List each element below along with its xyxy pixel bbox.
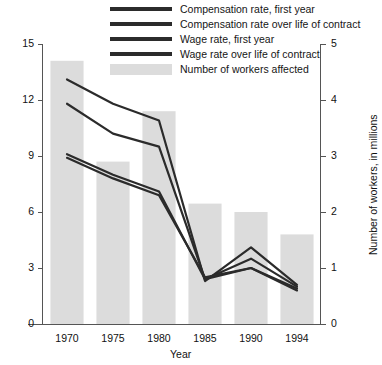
y-axis-left-tick: [38, 156, 43, 157]
legend-item-label: Compensation rate over life of contract: [180, 19, 360, 30]
y-axis-right-tick-label: 2: [331, 205, 337, 217]
bar-1970: [50, 61, 83, 324]
y-axis-right-tick: [321, 44, 326, 45]
y-axis-right-tick-label: 0: [331, 317, 337, 329]
y-axis-left-tick: [38, 212, 43, 213]
y-axis-right-tick-label: 1: [331, 261, 337, 273]
y-axis-right-tick-label: 4: [331, 93, 337, 105]
plot-area: [44, 44, 320, 324]
y-axis-left-tick-label: 0: [10, 317, 34, 329]
chart-plot-svg: [44, 44, 320, 324]
y-axis-right-tick-label: 3: [331, 149, 337, 161]
x-axis-tick-label: 1970: [44, 332, 90, 344]
bar-1985: [188, 204, 221, 324]
y-axis-right-tick: [321, 156, 326, 157]
x-axis-tick-label: 1985: [182, 332, 228, 344]
line-swatch-icon: [110, 37, 172, 41]
x-axis-line: [28, 324, 322, 325]
y-axis-left-tick: [38, 324, 43, 325]
chart-container: Compensation rate, first year Compensati…: [0, 0, 382, 365]
line-swatch-icon: [110, 7, 172, 11]
y-axis-left-line: [42, 44, 43, 325]
x-axis-title: Year: [170, 348, 191, 360]
y-axis-left-tick: [38, 44, 43, 45]
x-axis-tick-label: 1990: [228, 332, 274, 344]
legend-item-label: Compensation rate, first year: [180, 4, 315, 15]
legend-item-compensation-life-of-contract: Compensation rate over life of contract: [110, 17, 360, 31]
y-axis-left-tick: [38, 268, 43, 269]
y-axis-left-tick-label: 3: [10, 261, 34, 273]
legend-item-compensation-first-year: Compensation rate, first year: [110, 2, 360, 16]
line-swatch-icon: [110, 22, 172, 26]
y-axis-right-tick: [321, 324, 326, 325]
y-axis-left-tick: [38, 100, 43, 101]
y-axis-right-line: [320, 44, 321, 325]
y-axis-left-tick-label: 12: [10, 93, 34, 105]
x-axis-tick-label: 1980: [136, 332, 182, 344]
y-axis-right-tick: [321, 100, 326, 101]
legend-item-label: Wage rate, first year: [180, 34, 274, 45]
y-axis-left-tick-label: 9: [10, 149, 34, 161]
x-axis-tick-label: 1994: [274, 332, 320, 344]
y-axis-left-tick-label: 6: [10, 205, 34, 217]
y-axis-right-tick: [321, 212, 326, 213]
bar-1975: [96, 162, 129, 324]
y-axis-right-tick-label: 5: [331, 37, 337, 49]
y-axis-left-tick-label: 15: [10, 37, 34, 49]
y-axis-right-tick: [321, 268, 326, 269]
y-axis-right-title: Number of workers, in millions: [367, 114, 379, 255]
x-axis-tick-label: 1975: [90, 332, 136, 344]
